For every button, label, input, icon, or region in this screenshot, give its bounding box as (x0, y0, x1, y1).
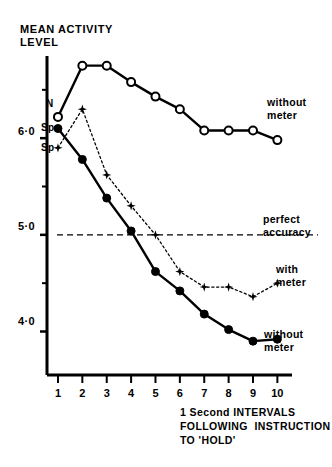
x-axis-tick-label-10: 10 (268, 387, 286, 399)
series-without-meter-n-point-4 (127, 78, 135, 86)
x-axis-tick-label-8: 8 (220, 387, 238, 399)
series-without-meter-sp-point-8 (225, 326, 233, 334)
x-axis-tick-label-2: 2 (73, 387, 91, 399)
series-with-meter-sp-point-6 (175, 267, 184, 276)
axis-ticks (40, 90, 277, 383)
series-without-meter-n-point-9 (249, 126, 257, 134)
series-with-meter-sp-point-10 (273, 279, 282, 288)
x-axis-tick-label-7: 7 (195, 387, 213, 399)
series-without-meter-sp-point-3 (103, 194, 111, 202)
series-without-meter-n-point-8 (225, 126, 233, 134)
series-without-meter-n (54, 62, 281, 144)
series-without-meter-n-point-5 (151, 93, 159, 101)
data-series (53, 62, 282, 346)
series-without-meter-n-point-3 (103, 62, 111, 70)
x-axis-tick-label-1: 1 (49, 387, 67, 399)
chart-figure: MEAN ACTIVITY LEVEL 6·0 5·0 4·0 N Sp Sp … (0, 0, 332, 467)
series-without-meter-sp-point-4 (127, 227, 135, 235)
series-with-meter-sp-point-2 (78, 105, 87, 114)
x-axis-tick-label-4: 4 (122, 387, 140, 399)
series-without-meter-sp-point-7 (200, 310, 208, 318)
x-axis-tick-label-9: 9 (244, 387, 262, 399)
series-without-meter-n-line (58, 66, 277, 140)
series-without-meter-n-point-10 (273, 136, 281, 144)
series-with-meter-sp-point-1 (53, 143, 62, 152)
series-without-meter-sp-point-6 (176, 287, 184, 295)
x-axis-tick-label-5: 5 (146, 387, 164, 399)
series-with-meter-sp-point-8 (224, 282, 233, 291)
series-without-meter-n-point-7 (200, 126, 208, 134)
x-axis-tick-label-3: 3 (98, 387, 116, 399)
series-without-meter-sp-point-9 (249, 337, 257, 345)
series-with-meter-sp-point-9 (248, 292, 257, 301)
series-without-meter-sp-point-2 (78, 155, 86, 163)
x-axis-tick-label-6: 6 (171, 387, 189, 399)
series-without-meter-n-point-1 (54, 113, 62, 121)
series-without-meter-n-point-2 (78, 62, 86, 70)
series-with-meter-sp-line (58, 109, 277, 297)
series-without-meter-sp-point-1 (54, 125, 62, 133)
series-without-meter-sp-point-5 (151, 268, 159, 276)
series-without-meter-n-point-6 (176, 105, 184, 113)
series-with-meter-sp-point-7 (200, 282, 209, 291)
series-with-meter-sp (53, 105, 282, 302)
series-without-meter-sp-point-10 (273, 335, 281, 343)
